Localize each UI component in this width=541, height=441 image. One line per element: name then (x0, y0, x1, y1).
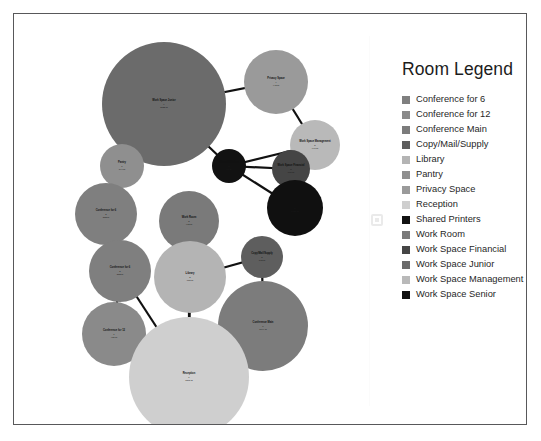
legend-color-swatch (402, 171, 410, 179)
legend-label: Pantry (416, 170, 443, 179)
bubble-sub-text: 1044 sf (259, 328, 267, 330)
legend-row[interactable]: Conference for 6 (402, 92, 541, 107)
legend-color-swatch (402, 276, 410, 284)
legend-label: Library (416, 155, 444, 164)
legend-color-swatch (402, 96, 410, 104)
legend-color-swatch (402, 231, 410, 239)
legend-label: Work Room (416, 230, 465, 239)
legend-row[interactable]: Copy/Mail/Supply (402, 137, 541, 152)
bubble-sub-text: 352 sf (103, 216, 110, 218)
legend-label: Reception (416, 200, 458, 209)
legend-color-swatch (402, 156, 410, 164)
legend-color-swatch (402, 141, 410, 149)
legend-color-swatch (402, 246, 410, 254)
legend-title: Room Legend (402, 59, 541, 80)
legend-color-swatch (402, 216, 410, 224)
legend-label: Work Space Financial (416, 245, 506, 254)
small-square-marker-icon (371, 214, 383, 226)
room-legend: Room Legend Conference for 6Conference f… (387, 59, 541, 302)
legend-label: Conference Main (416, 125, 487, 134)
bubble-diagram-screenshot: Work Space Junior93122 sfPrivacy Space44… (0, 0, 541, 441)
nodes-layer (75, 42, 340, 424)
legend-row[interactable]: Library (402, 152, 541, 167)
legend-row[interactable]: Privacy Space (402, 182, 541, 197)
figure-frame: Work Space Junior93122 sfPrivacy Space44… (13, 13, 527, 425)
legend-row[interactable]: Work Space Financial (402, 242, 541, 257)
legend-row[interactable]: Work Space Senior (402, 287, 541, 302)
legend-items: Conference for 6Conference for 12Confere… (387, 92, 541, 302)
legend-label: Privacy Space (416, 185, 475, 194)
legend-label: Conference for 6 (416, 95, 485, 104)
legend-label: Shared Printers (416, 215, 481, 224)
legend-color-swatch (402, 111, 410, 119)
legend-label: Work Space Management (416, 275, 523, 284)
bubble-sub-text: 415 sf (186, 223, 193, 225)
bubble-sub-text: 651 sf (187, 279, 194, 281)
bubble-sub-text: 606 sf (288, 171, 295, 173)
bubble-sub-text: 445 sf (273, 84, 280, 86)
legend-row[interactable]: Pantry (402, 167, 541, 182)
bubble-sub-text: 96 sf (227, 168, 232, 170)
bubble-sub-text: 1868 sf (185, 379, 193, 381)
legend-color-swatch (402, 126, 410, 134)
legend-color-swatch (402, 291, 410, 299)
legend-label: Work Space Senior (416, 290, 496, 299)
legend-label: Work Space Junior (416, 260, 494, 269)
legend-row[interactable]: Work Space Junior (402, 257, 541, 272)
bubble-sub-text: 420 sf (111, 336, 118, 338)
bubble-plot-area: Work Space Junior93122 sfPrivacy Space44… (14, 14, 369, 424)
bubble-sub-text: 1480 sf (291, 210, 299, 212)
legend-label: Copy/Mail/Supply (416, 140, 488, 149)
legend-row[interactable]: Conference Main (402, 122, 541, 137)
panel-divider (369, 36, 370, 406)
bubble-plot-svg: Work Space Junior93122 sfPrivacy Space44… (14, 14, 369, 424)
bubble-sub-text: 352 sf (117, 273, 124, 275)
legend-color-swatch (402, 261, 410, 269)
bubble-sub-text: 165 sf (259, 259, 266, 261)
legend-label: Conference for 12 (416, 110, 490, 119)
legend-color-swatch (402, 186, 410, 194)
legend-row[interactable]: Shared Printers (402, 212, 541, 227)
bubble-sub-text: 194 sf (119, 168, 126, 170)
bubble-sub-text: 3122 sf (160, 106, 168, 108)
legend-row[interactable]: Work Space Management (402, 272, 541, 287)
legend-row[interactable]: Work Room (402, 227, 541, 242)
legend-row[interactable]: Reception (402, 197, 541, 212)
legend-color-swatch (402, 201, 410, 209)
legend-row[interactable]: Conference for 12 (402, 107, 541, 122)
bubble-sub-text: 996 sf (312, 147, 319, 149)
